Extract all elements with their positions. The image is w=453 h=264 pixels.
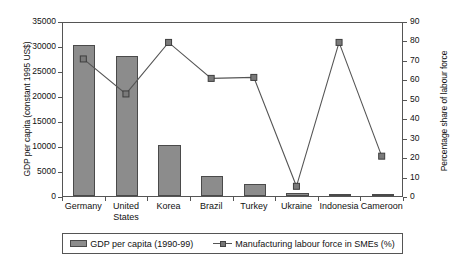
left-tick-label: 35000 [10,17,56,26]
chart-figure: GDP per capita (constant 1995 US$) Perce… [0,0,453,264]
right-tick-label: 60 [410,75,440,84]
line-marker [336,39,342,45]
right-tick-mark [403,139,407,140]
right-tick-mark [403,119,407,120]
category-label: Cameroon [356,201,407,212]
legend-label-gdp: GDP per capita (1990-99) [90,239,193,249]
right-tick-label: 70 [410,56,440,65]
left-tick-label: 5000 [10,167,56,176]
left-tick-label: 20000 [10,92,56,101]
left-tick-label: 0 [10,192,56,201]
line-series [62,22,403,197]
chart-legend: GDP per capita (1990-99) Manufacturing l… [62,233,403,254]
line-marker-icon [213,240,232,248]
left-tick-label: 30000 [10,42,56,51]
left-tick-label: 10000 [10,142,56,151]
right-axis-title: Percentage share of labour force [439,23,449,199]
line-marker [166,39,172,45]
right-tick-label: 50 [410,95,440,104]
left-tick-label: 25000 [10,67,56,76]
right-tick-mark [403,41,407,42]
right-tick-label: 10 [410,173,440,182]
right-tick-label: 0 [410,192,440,201]
line-marker [80,56,86,62]
right-tick-mark [403,178,407,179]
line-marker [123,91,129,97]
line-marker [208,75,214,81]
legend-item-sme: Manufacturing labour force in SMEs (%) [213,239,395,249]
line-marker [251,74,257,80]
right-tick-label: 40 [410,114,440,123]
left-tick-label: 15000 [10,117,56,126]
right-tick-label: 20 [410,153,440,162]
right-tick-mark [403,100,407,101]
line-path [83,42,381,186]
right-tick-mark [403,61,407,62]
right-tick-label: 30 [410,134,440,143]
line-marker [379,153,385,159]
line-marker [293,183,299,189]
legend-label-sme: Manufacturing labour force in SMEs (%) [235,239,395,249]
right-tick-label: 90 [410,17,440,26]
right-tick-mark [403,22,407,23]
right-tick-mark [403,158,407,159]
right-tick-mark [403,80,407,81]
legend-item-gdp: GDP per capita (1990-99) [70,239,193,249]
bar-swatch-icon [70,240,87,247]
right-tick-label: 80 [410,36,440,45]
